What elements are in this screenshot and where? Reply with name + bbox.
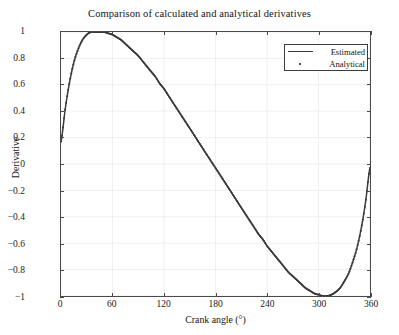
y-tick-label: 1 [0,26,25,36]
y-tickmark [60,164,64,165]
figure-canvas: Comparison of calculated and analytical … [0,0,399,335]
y-tickmark-right [367,84,371,85]
x-tickmark [267,293,268,297]
x-tickmark [319,293,320,297]
y-tick-label: −0.8 [0,265,25,275]
y-tickmark-right [367,217,371,218]
legend-line-swatch [285,46,315,58]
series-analytical [61,32,370,296]
legend-item-analytical[interactable]: Analytical [285,57,369,70]
x-tickmark-top [267,31,268,35]
y-tickmark [60,111,64,112]
y-tick-label: 0.8 [0,53,25,63]
series-estimated [61,32,370,296]
x-axis-label: Crank angle (°) [60,314,371,325]
y-tick-label: 0.6 [0,79,25,89]
y-tick-label: −1 [0,292,25,302]
y-tickmark-right [367,137,371,138]
x-tickmark-top [60,31,61,35]
x-tickmark [164,293,165,297]
y-tickmark [60,137,64,138]
y-tickmark-right [367,270,371,271]
y-tickmark [60,84,64,85]
y-tickmark [60,270,64,271]
x-tick-label: 120 [157,299,171,309]
data-series-layer [61,32,370,296]
x-tick-label: 0 [58,299,63,309]
x-tickmark [112,293,113,297]
y-tickmark-right [367,244,371,245]
y-axis-label: Derivative [10,113,21,203]
x-tick-label: 240 [260,299,274,309]
x-tick-label: 180 [208,299,222,309]
x-tickmark [371,293,372,297]
y-tickmark [60,58,64,59]
legend-label-estimated: Estimated [315,47,369,57]
chart-title: Comparison of calculated and analytical … [0,8,399,19]
y-tick-label: −0.6 [0,239,25,249]
x-tickmark-top [319,31,320,35]
y-tickmark [60,244,64,245]
x-tickmark-top [216,31,217,35]
y-tickmark [60,191,64,192]
x-tick-label: 360 [364,299,378,309]
x-tickmark-top [371,31,372,35]
x-tickmark-top [164,31,165,35]
y-tickmark-right [367,164,371,165]
legend-box[interactable]: Estimated Analytical [284,44,368,71]
y-tickmark-right [367,191,371,192]
y-tickmark [60,297,64,298]
x-tickmark [60,293,61,297]
legend-dot-swatch [285,58,315,70]
x-tickmark-top [112,31,113,35]
y-tickmark-right [367,111,371,112]
y-tickmark [60,217,64,218]
y-tick-label: −0.4 [0,212,25,222]
x-tick-label: 300 [312,299,326,309]
y-tickmark-right [367,297,371,298]
x-tickmark [216,293,217,297]
legend-label-analytical: Analytical [315,59,369,69]
x-tick-label: 60 [107,299,117,309]
